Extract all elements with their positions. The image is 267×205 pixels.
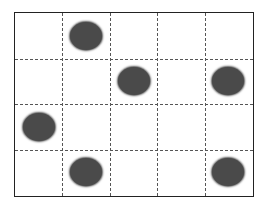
grid-line-horizontal [15,150,253,151]
blob-marker [23,113,55,141]
blob-marker [118,67,150,95]
blob-marker [70,158,102,186]
grid-line-horizontal [15,104,253,105]
blob-marker [70,22,102,50]
grid [14,12,254,197]
blob-marker [212,67,244,95]
blob-marker [212,158,244,186]
grid-line-horizontal [15,59,253,60]
